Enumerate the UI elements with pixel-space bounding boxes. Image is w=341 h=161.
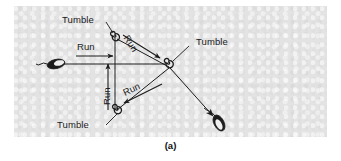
bacterium-end: [204, 108, 227, 133]
tumble-spiral-bottom: [113, 104, 122, 113]
path-exit-diagonal: [170, 68, 213, 116]
label-tumble-top: Tumble: [62, 14, 94, 25]
label-run-horizontal: Run: [77, 41, 95, 52]
run-tumble-diagram: [14, 6, 327, 137]
tumble-leader-lines: [106, 22, 189, 125]
label-tumble-right: Tumble: [196, 36, 228, 47]
bacterium-start-flagellum: [36, 63, 47, 65]
leader-line-tumble-right: [173, 46, 189, 61]
leader-line-tumble-bottom: [106, 113, 118, 125]
bacterium-start: [36, 58, 66, 71]
label-tumble-bottom: Tumble: [57, 119, 89, 130]
figure-caption: (a): [0, 140, 341, 151]
label-run-vertical: Run: [101, 87, 112, 105]
figure-root: Tumble Tumble Tumble Run Run Run Run (a): [0, 0, 341, 161]
